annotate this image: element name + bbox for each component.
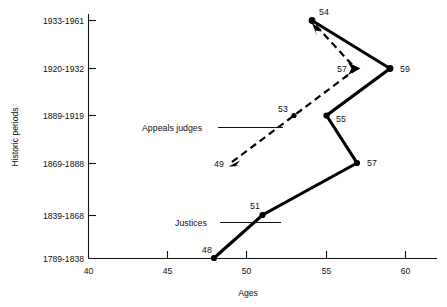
chart-container: 1933-1961 1920-1932 1889-1919 1869-1888 …	[0, 0, 447, 307]
label-appeals-1889-1919: 53	[278, 104, 288, 114]
data-point-labels: 48 51 57 55 59 54 49 53 57	[202, 7, 410, 255]
appeals-point-1920-1932-arrowhead	[348, 63, 361, 76]
y-tick-labels: 1933-1961 1920-1932 1889-1919 1869-1888 …	[43, 16, 84, 264]
justices-point-1839-1868	[259, 212, 265, 218]
x-axis-title: Ages	[238, 288, 258, 298]
justices-annotation-label: Justices	[175, 218, 207, 228]
label-appeals-1920-1932: 57	[337, 64, 347, 74]
label-justices-1839-1868: 51	[250, 201, 260, 211]
x-tick-label-55: 55	[322, 266, 332, 276]
x-tick-label-40: 40	[84, 266, 94, 276]
label-appeals-1869-1888: 49	[214, 159, 224, 169]
x-tick-label-60: 60	[401, 266, 411, 276]
y-tick-label-1933-1961: 1933-1961	[43, 16, 84, 26]
x-tick-label-50: 50	[242, 266, 252, 276]
label-justices-1789-1838: 48	[202, 245, 212, 255]
appeals-judges-annotation-label: Appeals judges	[142, 123, 203, 133]
x-tick-label-45: 45	[163, 266, 173, 276]
y-tick-label-1889-1919: 1889-1919	[43, 111, 84, 121]
series-appeals-judges	[229, 22, 361, 167]
annotation-justices: Justices	[175, 218, 281, 228]
y-tick-label-1789-1838: 1789-1838	[43, 254, 84, 264]
justices-point-1889-1919	[323, 112, 329, 118]
appeals-judges-line	[232, 24, 356, 162]
label-justices-1889-1919: 55	[336, 114, 346, 124]
y-tick-label-1839-1868: 1839-1868	[43, 211, 84, 221]
justices-point-1869-1888	[354, 160, 360, 166]
label-justices-1920-1932: 59	[400, 64, 410, 74]
y-tick-label-1869-1888: 1869-1888	[43, 159, 84, 169]
y-tick-label-1920-1932: 1920-1932	[43, 64, 84, 74]
annotation-appeals-judges: Appeals judges	[142, 123, 283, 133]
justices-point-1933-1961	[309, 17, 316, 24]
y-axis-title: Historic periods	[10, 107, 20, 166]
x-tick-labels: 40 45 50 55 60	[84, 266, 411, 276]
series-justices	[211, 17, 394, 261]
justices-point-1920-1932	[387, 65, 394, 72]
axis-group	[89, 14, 438, 259]
label-justices-1869-1888: 57	[367, 158, 377, 168]
label-justices-1933-1961: 54	[319, 7, 329, 17]
appeals-point-1889-1919	[291, 113, 296, 118]
justices-point-1789-1838	[211, 255, 217, 261]
line-chart: 1933-1961 1920-1932 1889-1919 1869-1888 …	[0, 0, 447, 307]
